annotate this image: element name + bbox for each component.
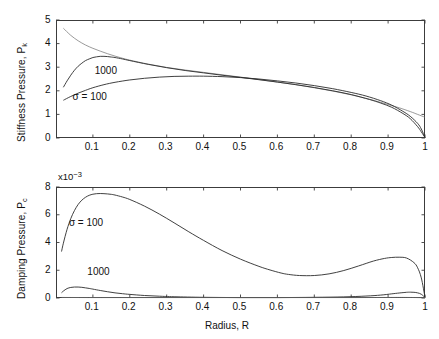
x-tick-label: 0.3 xyxy=(159,301,173,312)
series-annotation: σ = 100 xyxy=(69,217,103,228)
x-tick-label: 0.2 xyxy=(122,301,136,312)
data-series-asymptotic xyxy=(63,28,425,117)
y-tick-label: 5 xyxy=(45,14,51,25)
data-series-100 xyxy=(62,194,425,298)
x-tick-label: 0.4 xyxy=(196,301,210,312)
damping-plot: Damping Pressure, Pc x10−3 02468 0.10.20… xyxy=(0,165,439,339)
x-tick-label: 0.4 xyxy=(196,141,210,152)
damping-x-axis-label: Radius, R xyxy=(205,320,249,331)
x-tick-label: 0.6 xyxy=(269,141,283,152)
x-tick-label: 0.6 xyxy=(269,301,283,312)
damping-curves xyxy=(0,165,439,339)
y-tick-label: 1 xyxy=(45,108,51,119)
data-series-1000 xyxy=(62,287,425,298)
y-tick-label: 6 xyxy=(45,208,51,219)
x-tick-label: 0.3 xyxy=(159,141,173,152)
y-tick-label: 4 xyxy=(45,236,51,247)
series-annotation: 1000 xyxy=(95,65,117,76)
stiffness-plot: Stiffness Pressure, Pk 012345 0.10.20.30… xyxy=(0,0,439,165)
data-series-100 xyxy=(63,76,425,137)
y-tick-label: 2 xyxy=(45,84,51,95)
figure-canvas: Stiffness Pressure, Pk 012345 0.10.20.30… xyxy=(0,0,439,339)
x-tick-label: 0.9 xyxy=(380,301,394,312)
x-tick-label: 0.1 xyxy=(85,141,99,152)
series-annotation: 1000 xyxy=(87,266,109,277)
stiffness-curves xyxy=(0,0,439,165)
data-series-1000 xyxy=(63,56,425,137)
x-tick-label: 1 xyxy=(422,141,428,152)
y-tick-label: 4 xyxy=(45,37,51,48)
x-tick-label: 0.7 xyxy=(306,301,320,312)
x-tick-label: 0.7 xyxy=(306,141,320,152)
y-tick-label: 0 xyxy=(45,132,51,143)
x-tick-label: 0.2 xyxy=(122,141,136,152)
x-tick-label: 0.8 xyxy=(343,301,357,312)
x-tick-label: 0.5 xyxy=(232,141,246,152)
series-annotation: σ = 100 xyxy=(73,91,107,102)
y-tick-label: 2 xyxy=(45,264,51,275)
y-tick-label: 3 xyxy=(45,61,51,72)
y-tick-label: 0 xyxy=(45,292,51,303)
y-tick-label: 8 xyxy=(45,181,51,192)
x-tick-label: 0.5 xyxy=(232,301,246,312)
x-tick-label: 0.9 xyxy=(380,141,394,152)
x-tick-label: 0.1 xyxy=(85,301,99,312)
x-tick-label: 0.8 xyxy=(343,141,357,152)
x-tick-label: 1 xyxy=(422,301,428,312)
